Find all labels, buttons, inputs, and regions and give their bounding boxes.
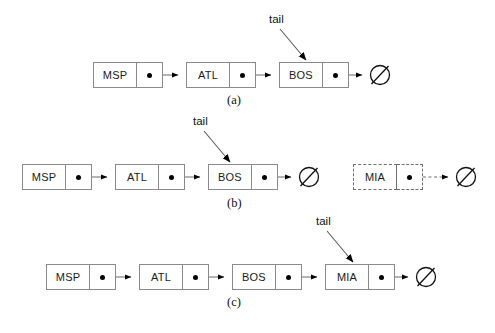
node-label: BOS [232, 264, 276, 290]
panel-caption-b: (b) [227, 196, 242, 211]
node-pointer-cell [397, 164, 423, 190]
pointer-dot-icon [407, 175, 412, 180]
node-pointer-cell [323, 62, 349, 88]
node-bos-a[interactable]: BOS [279, 62, 349, 88]
node-pointer-cell [137, 62, 163, 88]
node-pointer-cell [369, 264, 395, 290]
pointer-dot-icon [262, 175, 267, 180]
tail-label-a: tail [269, 13, 284, 25]
node-msp-a[interactable]: MSP [93, 62, 163, 88]
node-label: BOS [279, 62, 323, 88]
pointer-dot-icon [193, 275, 198, 280]
node-atl-a[interactable]: ATL [186, 62, 256, 88]
node-msp-c[interactable]: MSP [46, 264, 116, 290]
node-label: MSP [93, 62, 137, 88]
node-label: ATL [139, 264, 183, 290]
panel-caption-c: (c) [227, 295, 241, 310]
node-pointer-cell [66, 164, 92, 190]
null-glyph-b-detached [457, 168, 476, 187]
pointer-dot-icon [76, 175, 81, 180]
node-label: MSP [22, 164, 66, 190]
node-pointer-cell [230, 62, 256, 88]
node-label: ATL [186, 62, 230, 88]
pointer-dot-icon [240, 73, 245, 78]
pointer-dot-icon [147, 73, 152, 78]
node-pointer-cell [183, 264, 209, 290]
node-pointer-cell [90, 264, 116, 290]
node-mia-c[interactable]: MIA [325, 264, 395, 290]
null-glyph-b [300, 168, 319, 187]
node-label: MIA [353, 164, 397, 190]
node-mia-detached-b[interactable]: MIA [353, 164, 423, 190]
tail-label-c: tail [316, 215, 331, 227]
pointer-dot-icon [333, 73, 338, 78]
node-pointer-cell [159, 164, 185, 190]
pointer-dot-icon [379, 275, 384, 280]
node-pointer-cell [276, 264, 302, 290]
node-atl-b[interactable]: ATL [115, 164, 185, 190]
pointer-dot-icon [169, 175, 174, 180]
null-glyph-a [371, 66, 390, 85]
panel-a-connectors [146, 29, 390, 85]
node-msp-b[interactable]: MSP [22, 164, 92, 190]
node-pointer-cell [252, 164, 278, 190]
tail-label-b: tail [193, 115, 208, 127]
node-bos-c[interactable]: BOS [232, 264, 302, 290]
node-label: BOS [208, 164, 252, 190]
node-atl-c[interactable]: ATL [139, 264, 209, 290]
linked-list-diagram: MSP ATL BOS tail (a) MSP ATL BOS MIA [0, 0, 495, 333]
node-label: MSP [46, 264, 90, 290]
pointer-dot-icon [100, 275, 105, 280]
null-glyph-c [417, 268, 436, 287]
pointer-dot-icon [286, 275, 291, 280]
node-label: MIA [325, 264, 369, 290]
node-bos-b[interactable]: BOS [208, 164, 278, 190]
panel-caption-a: (a) [227, 93, 241, 108]
node-label: ATL [115, 164, 159, 190]
